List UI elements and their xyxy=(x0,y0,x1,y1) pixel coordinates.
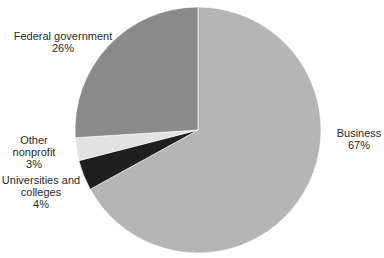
label-text: Business xyxy=(334,127,384,139)
label-other-nonprofit: Other nonprofit 3% xyxy=(2,134,66,170)
label-text: colleges xyxy=(0,186,82,198)
label-percent: 4% xyxy=(0,198,82,210)
label-percent: 3% xyxy=(2,158,66,170)
label-text: nonprofit xyxy=(2,146,66,158)
label-percent: 67% xyxy=(334,139,384,151)
label-federal-government: Federal government 26% xyxy=(8,30,118,54)
label-text: Universities and xyxy=(0,174,82,186)
label-text: Other xyxy=(2,134,66,146)
pie-slice-federal-government xyxy=(75,7,198,138)
label-business: Business 67% xyxy=(334,127,384,151)
label-universities-colleges: Universities and colleges 4% xyxy=(0,174,82,210)
label-text: Federal government xyxy=(8,30,118,42)
label-percent: 26% xyxy=(8,42,118,54)
